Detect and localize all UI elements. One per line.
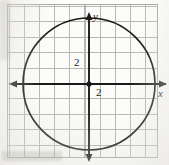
- axes-and-curve-layer: [0, 0, 169, 165]
- y-axis-label: y: [93, 11, 98, 22]
- origin-dot: [86, 81, 91, 86]
- graph-figure: y x 2 2: [0, 0, 169, 165]
- y-axis-top-arrowhead: [86, 12, 93, 20]
- x-axis-label: x: [158, 88, 163, 99]
- x-axis-left-arrowhead: [9, 81, 17, 88]
- y-axis-bottom-arrowhead: [86, 154, 93, 162]
- x-intercept-tick-label: 2: [96, 87, 102, 98]
- y-intercept-tick-label: 2: [74, 57, 80, 68]
